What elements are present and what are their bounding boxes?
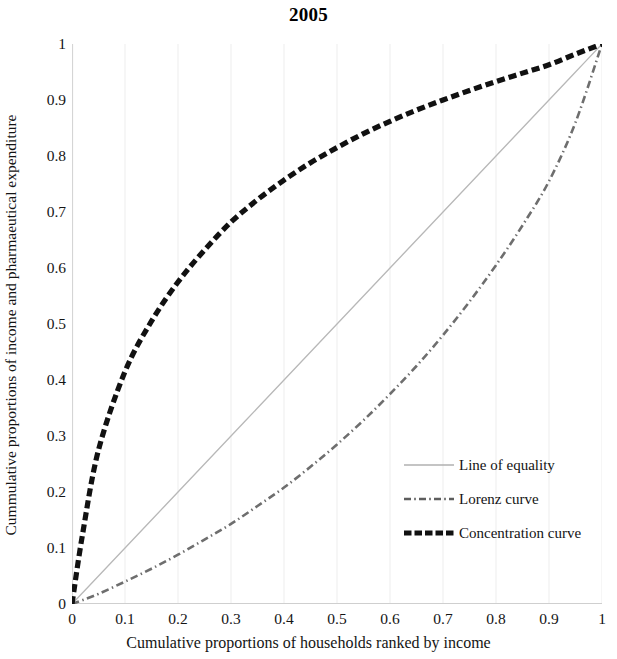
legend-item-lorenz-curve: Lorenz curve [404,482,616,516]
x-tick-label: 0.7 [413,610,473,628]
legend-label-concentration-curve: Concentration curve [459,525,581,542]
legend-item-concentration-curve: Concentration curve [404,516,616,550]
x-tick-label: 0 [42,610,102,628]
x-tick-label: 0.1 [95,610,155,628]
chart-title: 2005 [0,4,617,26]
legend-label-lorenz-curve: Lorenz curve [459,491,539,508]
y-tick-label: 0.5 [20,315,66,333]
legend-item-line-of-equality: Line of equality [404,448,616,482]
x-tick-label: 0.6 [360,610,420,628]
y-tick-label: 0.9 [20,91,66,109]
y-tick-label: 0.4 [20,371,66,389]
x-tick-label: 0.3 [201,610,261,628]
x-tick-label: 0.2 [148,610,208,628]
legend-swatch-line-of-equality [404,459,454,471]
y-tick-label: 0.7 [20,203,66,221]
y-tick-label: 0.2 [20,483,66,501]
legend-swatch-concentration-curve [404,527,454,539]
y-tick-label: 0.8 [20,147,66,165]
legend-label-line-of-equality: Line of equality [459,457,555,474]
x-tick-label: 0.4 [254,610,314,628]
y-tick-label: 1 [20,35,66,53]
x-axis-title: Cumulative proportions of households ran… [0,634,617,652]
y-tick-label: 0.6 [20,259,66,277]
legend-swatch-lorenz-curve [404,493,454,505]
y-tick-label: 0.3 [20,427,66,445]
x-tick-label: 0.5 [307,610,367,628]
chart-figure: 2005 Cummulative proportions of income a… [0,0,617,659]
x-tick-label: 0.8 [466,610,526,628]
x-tick-label: 0.9 [519,610,579,628]
x-axis-tick-labels: 00.10.20.30.40.50.60.70.80.91 [0,610,617,632]
y-axis-tick-labels: 00.10.20.30.40.50.60.70.80.91 [14,0,66,659]
x-tick-label: 1 [572,610,617,628]
chart-legend: Line of equality Lorenz curve Concentrat… [404,448,616,550]
y-tick-label: 0.1 [20,539,66,557]
